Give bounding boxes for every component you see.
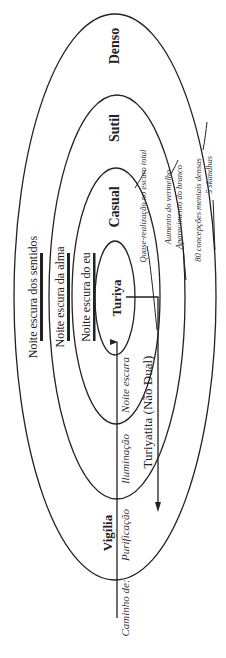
label-turiya: Turiya xyxy=(109,279,124,317)
annotation-red: Aumento do vermelho xyxy=(163,170,173,246)
label-sutil: Sutil xyxy=(107,114,122,142)
annotation-quasi: Quase-realização no escuro total xyxy=(138,149,148,263)
bar-senses xyxy=(40,253,43,341)
label-casual: Casual xyxy=(107,186,122,227)
label-dark-night-soul: Noite escura da alma xyxy=(53,246,67,348)
label-nondual: Turiyatita (Não Dual) xyxy=(140,356,155,469)
label-denso: Denso xyxy=(107,28,122,65)
label-path-illumination: Iluminação xyxy=(119,433,131,485)
label-path-prefix: Caminho de: xyxy=(119,579,131,636)
label-dark-night-senses: Noite escura dos sentidos xyxy=(26,236,40,359)
label-path-dark-night: Noite escura xyxy=(119,357,131,414)
annotation-skandhas: 5 skandhas xyxy=(204,155,214,194)
nondual-arrowhead-icon xyxy=(155,502,161,512)
label-dark-night-self: Noite escura do eu xyxy=(79,252,93,342)
bar-soul xyxy=(67,253,70,341)
states-of-consciousness-diagram: Denso Sutil Casual Turiya Noite escura d… xyxy=(0,0,226,658)
bar-self xyxy=(93,253,96,341)
annotation-eighty: 80 concepções mentais densas xyxy=(193,158,203,262)
annotation-white: Aparecimento do branco xyxy=(174,165,184,250)
label-path-purification: Purificação xyxy=(119,509,131,562)
label-waking: Vigília xyxy=(100,514,115,551)
leader-eighty xyxy=(203,122,207,150)
leader-quasi-b xyxy=(147,246,157,330)
